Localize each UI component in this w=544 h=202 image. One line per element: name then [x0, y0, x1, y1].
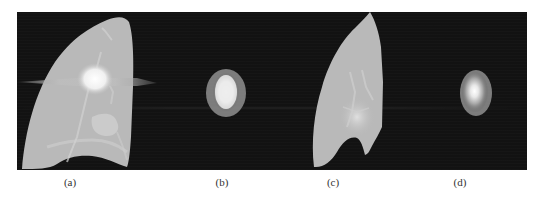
panel-d-label: (d)	[454, 176, 467, 188]
panel-c-label: (c)	[327, 176, 339, 188]
scan-panel-strip	[17, 12, 527, 170]
scan-images	[17, 12, 527, 170]
panel-a-image	[17, 17, 157, 169]
panel-b-image	[206, 69, 246, 117]
panel-c-image	[313, 12, 383, 167]
figure: (a) (b) (c) (d)	[0, 0, 544, 202]
panel-b-label: (b)	[216, 176, 229, 188]
panel-a-label: (a)	[64, 176, 76, 188]
panel-d-image	[460, 70, 492, 116]
